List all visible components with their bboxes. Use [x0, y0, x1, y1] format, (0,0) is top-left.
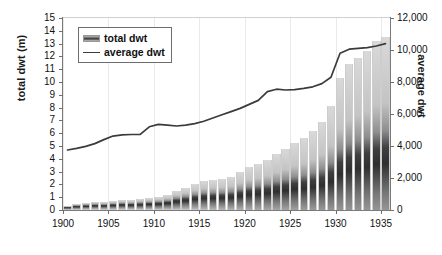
- plot-top-border: [62, 17, 391, 18]
- secondary-y-axis-tick-label: 6,000: [397, 109, 442, 119]
- secondary-y-axis-tick-label: 2,000: [397, 173, 442, 183]
- y-axis-tick-label: 6: [15, 128, 55, 138]
- secondary-y-axis-tick-label: 4,000: [397, 141, 442, 151]
- chart-legend: total dwt average dwt: [78, 27, 172, 63]
- x-axis-tick-label: 1925: [270, 218, 310, 229]
- y-axis-tick: [59, 133, 63, 134]
- y-axis-tick-label: 7: [15, 115, 55, 125]
- secondary-y-axis-tick-label: 0: [397, 205, 442, 215]
- legend-label: average dwt: [104, 46, 165, 58]
- y-axis-tick-label: 10: [15, 77, 55, 87]
- y-axis-tick-label: 12: [15, 51, 55, 61]
- secondary-y-axis-tick-label: 12,000: [397, 13, 442, 23]
- y-axis-tick-label: 2: [15, 179, 55, 189]
- x-axis-tick: [154, 210, 155, 214]
- secondary-y-axis-tick: [390, 146, 394, 147]
- x-axis-tick-label: 1910: [134, 218, 174, 229]
- secondary-y-axis-tick: [390, 82, 394, 83]
- x-axis-tick: [199, 210, 200, 214]
- secondary-y-axis-tick-label: 8,000: [397, 77, 442, 87]
- y-axis-tick: [59, 31, 63, 32]
- legend-item-total-dwt: total dwt: [83, 31, 165, 45]
- y-axis-tick-label: 9: [15, 90, 55, 100]
- y-axis-tick: [59, 56, 63, 57]
- line-swatch-icon: [83, 49, 100, 56]
- y-axis-tick: [59, 184, 63, 185]
- y-axis-tick: [59, 108, 63, 109]
- y-axis-tick-label: 14: [15, 26, 55, 36]
- y-axis-tick-label: 8: [15, 103, 55, 113]
- chart-figure: total dwt (m) average dwt 01234567891011…: [0, 0, 442, 255]
- secondary-y-axis-tick-label: 10,000: [397, 45, 442, 55]
- y-axis-tick: [59, 95, 63, 96]
- y-axis-tick: [59, 197, 63, 198]
- x-axis-tick: [245, 210, 246, 214]
- secondary-y-axis-tick: [390, 210, 394, 211]
- y-axis-line: [62, 17, 63, 211]
- x-axis-tick: [336, 210, 337, 214]
- y-axis-tick-label: 4: [15, 154, 55, 164]
- y-axis-tick: [59, 172, 63, 173]
- x-axis-line: [62, 210, 391, 211]
- x-axis-tick-label: 1900: [43, 218, 83, 229]
- x-axis-tick-label: 1920: [225, 218, 265, 229]
- legend-item-average-dwt: average dwt: [83, 45, 165, 59]
- x-axis-tick: [290, 210, 291, 214]
- y-axis-tick: [59, 159, 63, 160]
- x-axis-tick: [63, 210, 64, 214]
- x-axis-tick: [108, 210, 109, 214]
- x-axis-tick-label: 1905: [88, 218, 128, 229]
- y-axis-tick-label: 15: [15, 13, 55, 23]
- bar-swatch-icon: [83, 35, 100, 42]
- x-axis-tick-label: 1930: [316, 218, 356, 229]
- y-axis-tick-label: 11: [15, 64, 55, 74]
- y-axis-tick: [59, 120, 63, 121]
- secondary-y-axis-tick: [390, 18, 394, 19]
- y-axis-tick: [59, 18, 63, 19]
- secondary-y-axis-tick: [390, 114, 394, 115]
- x-axis-tick: [381, 210, 382, 214]
- y-axis-tick-label: 3: [15, 167, 55, 177]
- y-axis-tick-label: 0: [15, 205, 55, 215]
- secondary-y-axis-tick: [390, 50, 394, 51]
- y-axis-tick: [59, 44, 63, 45]
- x-axis-tick-label: 1915: [179, 218, 219, 229]
- secondary-y-axis-tick: [390, 178, 394, 179]
- y-axis-tick-label: 1: [15, 192, 55, 202]
- y-axis-tick: [59, 146, 63, 147]
- x-axis-tick-label: 1935: [361, 218, 401, 229]
- legend-label: total dwt: [104, 32, 147, 44]
- y-axis-tick: [59, 69, 63, 70]
- y-axis-tick-label: 13: [15, 39, 55, 49]
- y-axis-tick-label: 5: [15, 141, 55, 151]
- y-axis-tick: [59, 82, 63, 83]
